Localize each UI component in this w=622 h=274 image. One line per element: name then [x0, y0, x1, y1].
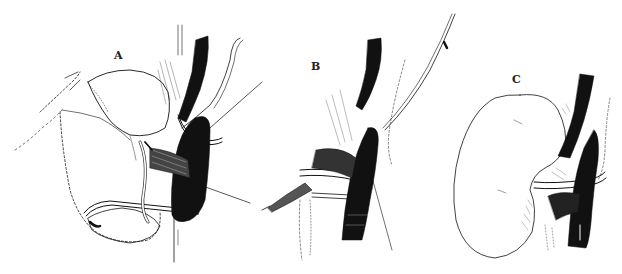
panel-label-a: A — [114, 49, 123, 62]
surgical-illustration-figure: A B C — [0, 0, 622, 274]
illustration-drawing — [0, 0, 622, 274]
panel-label-b: B — [311, 60, 320, 73]
panel-b-drawing — [262, 14, 455, 260]
panel-label-c: C — [512, 73, 521, 86]
panel-c-drawing — [454, 74, 610, 258]
panel-a-drawing — [15, 25, 262, 262]
